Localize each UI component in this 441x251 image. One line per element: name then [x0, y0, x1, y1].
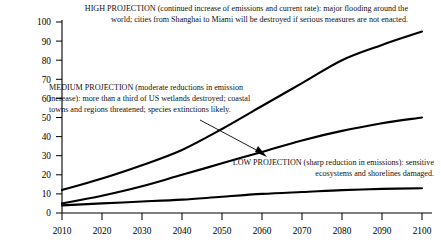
- y-tick-label: 30: [42, 151, 52, 161]
- y-tick-label: 10: [42, 189, 52, 199]
- y-tick-label: 90: [42, 37, 52, 47]
- x-tick-label: 2040: [173, 226, 192, 236]
- x-tick-label: 2010: [53, 226, 72, 236]
- medium-projection-note: MEDIUM PROJECTION (moderate reductions i…: [49, 82, 264, 115]
- medium-projection-pointer-icon: [200, 120, 267, 157]
- y-axis: [56, 20, 62, 213]
- projection-lines: [62, 32, 422, 206]
- low-projection-note: LOW PROJECTION (sharp reduction in emiss…: [196, 157, 434, 179]
- x-tick-label: 2090: [373, 226, 392, 236]
- y-tick-label: 20: [42, 170, 52, 180]
- y-tick-label: 0: [46, 208, 51, 218]
- x-tick-label: 2060: [253, 226, 272, 236]
- x-tick-label: 2020: [93, 226, 112, 236]
- y-tick-label: 40: [42, 132, 52, 142]
- x-tick-label: 2080: [333, 226, 352, 236]
- x-tick-label: 2050: [213, 226, 232, 236]
- y-axis-tick-labels: 0102030405060708090100: [37, 17, 51, 218]
- y-tick-label: 80: [42, 56, 52, 66]
- x-tick-label: 2070: [293, 226, 312, 236]
- x-tick-label: 2030: [133, 226, 152, 236]
- x-tick-label: 2100: [413, 226, 432, 236]
- y-tick-label: 100: [37, 17, 51, 27]
- x-axis: [62, 213, 432, 220]
- high-projection-note: HIGH PROJECTION (continued increase of e…: [78, 3, 408, 25]
- projection-line: [62, 188, 422, 205]
- x-axis-tick-labels: 2010202020302040205020602070208020902100: [53, 226, 432, 236]
- climate-projection-chart: 0102030405060708090100 20102020203020402…: [0, 0, 441, 251]
- chart-canvas: 0102030405060708090100 20102020203020402…: [0, 0, 441, 251]
